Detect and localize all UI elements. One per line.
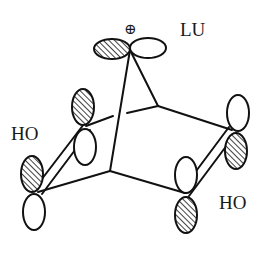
orbital-lobes [21,38,249,233]
c7-left-lobe-shaded [94,39,130,59]
bond-c1-c6 [158,106,232,130]
ho-label-right: HO [219,192,246,213]
bond-c7-c4 [110,50,130,171]
bond-c4-c3 [38,171,110,192]
c2-lower-lobe-open [74,129,96,165]
c3-upper-lobe-shaded [21,156,43,192]
bond-c4-c5 [110,171,185,193]
c7-right-lobe-open [130,38,166,58]
bond-c1-c2-a [127,106,158,113]
c6-lower-lobe-shaded [225,133,247,169]
positive-charge-symbol: ⊕ [124,21,137,37]
c6-upper-lobe-open [227,95,249,131]
c5-lower-lobe-shaded [175,197,197,233]
ho-label-left: HO [11,123,38,144]
orbital-diagram: ⊕ LU HO HO [0,0,270,253]
c3-lower-lobe-open [23,194,45,230]
skeleton-bonds [35,50,236,196]
c2-upper-lobe-shaded [72,89,94,125]
lu-label: LU [180,19,206,40]
c5-upper-lobe-open [175,157,197,193]
